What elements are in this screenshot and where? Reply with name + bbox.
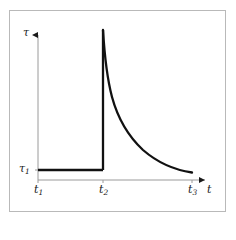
x-tick-label-t2: t2	[99, 184, 108, 197]
curve-hyperbolic-decay	[103, 30, 192, 173]
x-tick-label-t3: t3	[188, 184, 197, 197]
x-axis-label: t	[207, 184, 211, 195]
y-axis-label: τ	[23, 27, 29, 38]
y-tick-label-tau1: τ1	[19, 163, 30, 176]
x-tick-label-t1: t1	[34, 184, 43, 197]
